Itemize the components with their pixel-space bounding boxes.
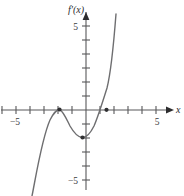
graph-figure: f'(x) x −5 5 5 −5: [0, 0, 184, 196]
x-axis-arrow-icon: [166, 107, 174, 114]
point-x-intercept-right: [104, 108, 108, 112]
point-local-minimum: [80, 135, 84, 139]
coordinate-plot: f'(x) x −5 5 5 −5: [0, 0, 184, 196]
y-tick-label-5: 5: [73, 22, 78, 32]
x-tick-label-neg5: −5: [10, 117, 20, 127]
curve-label: f'(x): [68, 4, 85, 16]
point-local-maximum: [57, 107, 61, 111]
y-tick-label-neg5: −5: [68, 176, 78, 186]
x-tick-label-5: 5: [155, 117, 160, 127]
x-axis-label: x: [175, 104, 181, 115]
derivative-curve: [32, 14, 116, 196]
